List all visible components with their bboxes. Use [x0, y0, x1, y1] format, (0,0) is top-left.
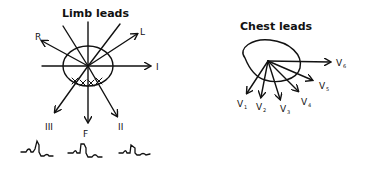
svg-text:V: V — [237, 99, 244, 109]
lead-V5-arrow — [268, 61, 312, 80]
svg-text:6: 6 — [343, 63, 346, 69]
svg-text:V: V — [301, 97, 308, 107]
svg-text:1: 1 — [244, 104, 247, 110]
lead-V6-arrow — [268, 61, 330, 62]
ecg-trace-III — [21, 141, 53, 156]
ecg-trace-F — [68, 144, 102, 157]
svg-text:3: 3 — [287, 109, 290, 115]
chest-leads-title: Chest leads — [240, 20, 313, 33]
label-V1: V1 — [237, 99, 247, 110]
lead-R-arrow — [42, 41, 88, 66]
ecg-leads-diagram: Limb leads R L I III F II Chest leads — [0, 0, 365, 170]
svg-text:V: V — [336, 58, 343, 68]
svg-text:V: V — [256, 102, 263, 112]
label-III: III — [45, 122, 53, 132]
limb-leads-title: Limb leads — [62, 7, 129, 20]
label-I: I — [156, 62, 159, 72]
svg-text:5: 5 — [326, 86, 329, 92]
chest-leads-diagram: Chest leads V1 V2 V3 V4 V5 V6 — [237, 20, 346, 115]
ecg-trace-II — [119, 145, 150, 155]
svg-text:4: 4 — [308, 102, 311, 108]
label-V5: V5 — [319, 81, 329, 92]
label-F: F — [83, 129, 88, 139]
label-II: II — [118, 122, 123, 132]
svg-text:V: V — [319, 81, 326, 91]
label-V2: V2 — [256, 102, 266, 113]
label-V4: V4 — [301, 97, 311, 108]
axis-line — [88, 24, 120, 66]
svg-text:V: V — [280, 104, 287, 114]
lead-II-arrow — [88, 66, 117, 116]
lead-III-arrow — [55, 66, 88, 112]
label-V3: V3 — [280, 104, 290, 115]
limb-leads-diagram: Limb leads R L I III F II — [21, 7, 159, 157]
label-V6: V6 — [336, 58, 346, 69]
label-R: R — [35, 32, 41, 42]
label-L: L — [140, 27, 145, 37]
svg-text:2: 2 — [263, 107, 266, 113]
